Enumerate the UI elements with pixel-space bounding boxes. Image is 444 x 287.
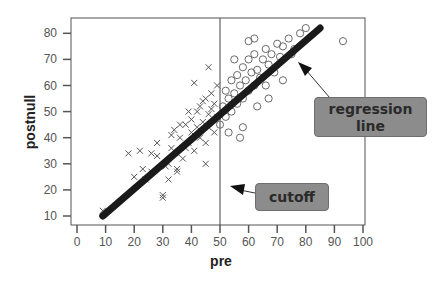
y-tick-label: 50 <box>44 105 58 119</box>
y-tick-label: 30 <box>44 157 58 171</box>
y-tick-label: 20 <box>44 183 58 197</box>
y-tick-label: 60 <box>44 79 58 93</box>
y-tick-label: 70 <box>44 52 58 66</box>
x-tick-label: 30 <box>156 235 170 249</box>
x-tick-label: 0 <box>74 235 81 249</box>
x-tick-label: 100 <box>353 235 373 249</box>
x-tick-label: 50 <box>213 235 227 249</box>
callout-regression-line1: regression <box>315 101 426 118</box>
x-tick-label: 40 <box>185 235 199 249</box>
x-tick-label: 10 <box>99 235 113 249</box>
y-tick-label: 80 <box>44 26 58 40</box>
y-tick-label: 10 <box>44 209 58 223</box>
callout-cutoff-label: cutoff <box>269 189 315 205</box>
x-tick-label: 90 <box>328 235 342 249</box>
y-axis-title: postnull <box>22 95 38 149</box>
callout-regression-line2: line <box>315 118 426 135</box>
y-axis: 1020304050607080 <box>44 26 71 223</box>
regression-line-callout: regression line <box>314 97 427 137</box>
x-axis: 0102030405060708090100 <box>74 225 374 249</box>
x-tick-label: 60 <box>242 235 256 249</box>
scatter-chart: 1020304050607080 0102030405060708090100 … <box>0 0 444 287</box>
cutoff-callout: cutoff <box>255 183 329 211</box>
x-tick-label: 20 <box>128 235 142 249</box>
y-tick-label: 40 <box>44 131 58 145</box>
x-tick-label: 70 <box>271 235 285 249</box>
x-axis-title: pre <box>210 253 232 269</box>
x-tick-label: 80 <box>299 235 313 249</box>
